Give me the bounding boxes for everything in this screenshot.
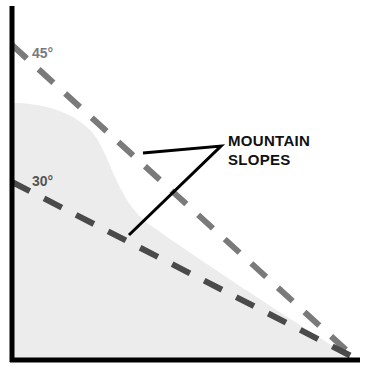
callout-line-1: MOUNTAIN xyxy=(228,131,310,150)
callout-line-2: SLOPES xyxy=(228,150,310,169)
slope-diagram xyxy=(0,0,367,367)
callout-text: MOUNTAIN SLOPES xyxy=(228,131,310,169)
angle-30-label: 30° xyxy=(32,173,53,189)
angle-45-label: 45° xyxy=(32,45,53,61)
